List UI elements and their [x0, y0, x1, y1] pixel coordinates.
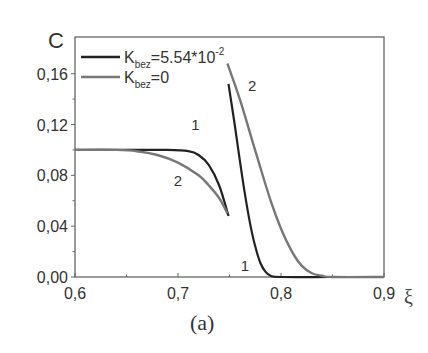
- y-axis-title: C: [48, 28, 64, 53]
- curve-number-label: 1: [241, 257, 249, 274]
- legend-label-2: Kbez=0: [124, 69, 169, 90]
- legend-label-1: Kbez=5.54*10-2: [124, 46, 225, 70]
- plot-border: [75, 37, 384, 277]
- x-tick-label: 0,6: [64, 285, 86, 302]
- panel-label: (a): [190, 310, 214, 335]
- chart: 0,60,70,80,90,000,040,080,120,16 1212 Kb…: [0, 0, 428, 353]
- y-tick-label: 0,12: [37, 117, 68, 134]
- x-axis-title: ξ: [404, 286, 413, 308]
- y-tick-label: 0,00: [37, 269, 68, 286]
- series-2-line: [227, 64, 384, 278]
- series-1-line: [229, 84, 385, 277]
- axis-ticks: 0,60,70,80,90,000,040,080,120,16: [37, 66, 395, 302]
- curve-number-label: 1: [191, 116, 199, 133]
- x-tick-label: 0,8: [270, 285, 292, 302]
- y-tick-label: 0,08: [37, 167, 68, 184]
- y-tick-label: 0,04: [37, 218, 68, 235]
- curve-number-label: 2: [174, 172, 182, 189]
- x-tick-label: 0,9: [373, 285, 395, 302]
- x-tick-label: 0,7: [167, 285, 189, 302]
- y-tick-label: 0,16: [37, 66, 68, 83]
- data-curves: [75, 64, 384, 278]
- curve-number-label: 2: [248, 77, 256, 94]
- plot-frame: [75, 37, 384, 277]
- legend: Kbez=5.54*10-2Kbez=0: [81, 46, 225, 90]
